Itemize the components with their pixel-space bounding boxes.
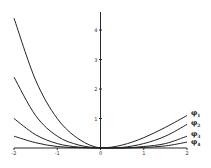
x-tick-label: 1 — [142, 150, 145, 156]
x-tick-label: -2 — [12, 150, 17, 156]
line-chart: -2-10121234 φ1φ2φ3φ4 — [0, 0, 211, 168]
y-tick-label: 2 — [94, 86, 97, 92]
x-tick-label: 2 — [185, 150, 188, 156]
y-tick-label: 3 — [94, 57, 97, 63]
axes: -2-10121234 — [12, 12, 189, 156]
legend-label-phi1: φ1 — [191, 108, 200, 118]
x-tick-label: 0 — [99, 150, 102, 156]
y-tick-label: 1 — [94, 116, 97, 122]
x-tick-label: -1 — [55, 150, 60, 156]
legend: φ1φ2φ3φ4 — [191, 108, 200, 147]
y-tick-label: 4 — [94, 27, 97, 33]
legend-label-phi2: φ2 — [191, 118, 200, 128]
